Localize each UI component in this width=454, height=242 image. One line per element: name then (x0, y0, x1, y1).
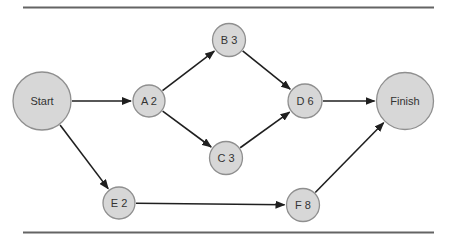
node-f8: F 8 (287, 189, 320, 222)
edge-a2-to-b3 (163, 51, 215, 90)
node-finish-label: Finish (390, 95, 419, 107)
edge-a2-to-c3 (163, 111, 211, 147)
node-finish: Finish (377, 73, 434, 130)
figure-canvas: StartA 2B 3C 3D 6E 2F 8Finish (0, 0, 454, 242)
node-c3: C 3 (210, 142, 243, 175)
network-diagram: StartA 2B 3C 3D 6E 2F 8Finish (0, 0, 454, 242)
edge-c3-to-d6 (240, 112, 289, 148)
node-d6-label: D 6 (296, 95, 313, 107)
node-a2: A 2 (133, 85, 165, 117)
node-b3: B 3 (213, 24, 246, 57)
node-e2: E 2 (103, 187, 135, 219)
node-b3-label: B 3 (221, 34, 238, 46)
node-start-label: Start (30, 95, 53, 107)
node-f8-label: F 8 (295, 199, 311, 211)
node-e2-label: E 2 (111, 197, 128, 209)
edge-b3-to-d6 (243, 51, 291, 89)
edge-start-to-e2 (60, 125, 108, 189)
edge-e2-to-f8 (136, 203, 285, 205)
node-start: Start (13, 72, 71, 130)
node-d6: D 6 (288, 84, 322, 118)
node-c3-label: C 3 (217, 152, 234, 164)
node-a2-label: A 2 (141, 95, 157, 107)
edge-f8-to-finish (315, 123, 383, 193)
